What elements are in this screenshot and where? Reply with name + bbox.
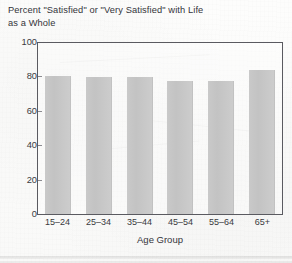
y-tick-label-60: 60 [9, 106, 37, 116]
x-tick-label-35-44: 35–44 [127, 217, 152, 227]
chart-page: Percent "Satisfied" or "Very Satisfied" … [0, 0, 292, 263]
x-tick-label-65-plus: 65+ [255, 217, 270, 227]
bar-35-44 [127, 77, 153, 214]
x-tick-label-25-34: 25–34 [86, 217, 111, 227]
x-axis-title: Age Group [37, 234, 283, 245]
bar-65-plus [249, 70, 275, 214]
x-tick-label-55-64: 55–64 [209, 217, 234, 227]
chart-title: Percent "Satisfied" or "Very Satisfied" … [8, 4, 284, 30]
y-tick-label-80: 80 [9, 71, 37, 81]
plot-area [37, 42, 283, 215]
y-tick-label-0: 0 [9, 209, 37, 219]
y-tick-label-20: 20 [9, 175, 37, 185]
y-tick-label-40: 40 [9, 140, 37, 150]
y-axis: 100 80 60 40 20 0 [0, 0, 37, 263]
bar-25-34 [86, 77, 112, 214]
bar-15-24 [45, 76, 71, 214]
y-tick-label-100: 100 [9, 37, 37, 47]
bar-55-64 [208, 81, 234, 214]
x-tick-label-45-54: 45–54 [168, 217, 193, 227]
page-edge-shadow [0, 256, 292, 259]
bar-45-54 [167, 81, 193, 214]
bar-series [38, 43, 282, 214]
x-tick-label-15-24: 15–24 [45, 217, 70, 227]
